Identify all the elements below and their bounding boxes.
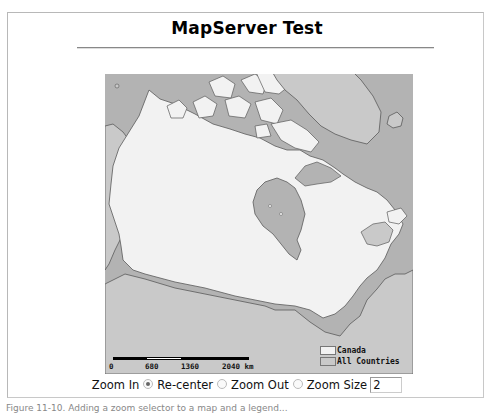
recenter-label: Re-center: [157, 378, 213, 392]
map-image[interactable]: 0 680 1360 2040 km Canada All Countries: [105, 74, 413, 374]
recenter-radio[interactable]: [217, 379, 227, 389]
zoom-controls: Zoom InRe-centerZoom OutZoom Size2: [0, 377, 494, 393]
scale-bar-segment: [113, 357, 147, 360]
legend-swatch: [320, 346, 336, 355]
zoom-size-label: Zoom Size: [307, 378, 367, 392]
zoom-in-label: Zoom In: [92, 378, 140, 392]
legend-label: Canada: [337, 346, 366, 355]
legend-item-canada: Canada: [320, 346, 400, 357]
scale-bar: [113, 357, 249, 360]
map-legend: Canada All Countries: [320, 346, 400, 368]
page-title: MapServer Test: [0, 18, 494, 38]
scale-label: 680: [145, 362, 159, 371]
zoom-in-radio[interactable]: [143, 379, 153, 389]
legend-swatch: [320, 357, 336, 366]
scale-bar-segment: [181, 357, 249, 360]
scale-label: 2040 km: [222, 362, 254, 371]
zoom-out-radio[interactable]: [293, 379, 303, 389]
legend-item-all-countries: All Countries: [320, 357, 400, 368]
figure-caption: Figure 11-10. Adding a zoom selector to …: [6, 403, 288, 413]
scale-label: 0: [109, 362, 114, 371]
title-divider: [77, 47, 434, 49]
scale-label: 1360: [181, 362, 199, 371]
zoom-out-label: Zoom Out: [231, 378, 289, 392]
map-canvas: [105, 74, 413, 374]
zoom-size-input[interactable]: 2: [370, 377, 402, 393]
legend-label: All Countries: [337, 357, 400, 366]
scale-bar-segment: [147, 357, 181, 360]
